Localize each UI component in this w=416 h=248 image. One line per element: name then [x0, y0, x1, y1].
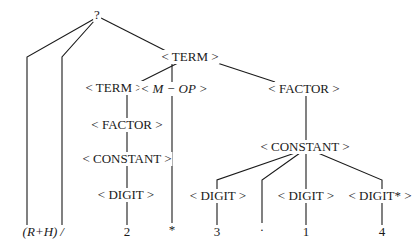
node-root: ?	[93, 8, 101, 22]
leaf-leaf-slash: /	[59, 225, 65, 239]
node-constant-left: < CONSTANT >	[81, 152, 172, 166]
leaf-leaf-3: 3	[213, 225, 222, 239]
node-digit-3: < DIGIT >	[189, 189, 247, 203]
node-term-left: < TERM >	[84, 81, 143, 95]
node-digit-left: < DIGIT >	[97, 188, 155, 202]
node-factor-right: < FACTOR >	[267, 82, 340, 96]
leaf-leaf-1: 1	[302, 225, 311, 239]
node-term-top: < TERM >	[160, 50, 219, 64]
node-constant-right: < CONSTANT >	[259, 140, 350, 154]
tree-edge	[101, 18, 168, 52]
leaf-leaf-dot: ·	[259, 223, 265, 237]
node-digit-1: < DIGIT >	[277, 189, 335, 203]
leaf-leaf-rh: (R+H)	[22, 225, 59, 239]
leaf-leaf-2: 2	[123, 225, 132, 239]
leaf-leaf-star: *	[168, 223, 177, 237]
tree-edge	[27, 19, 94, 226]
tree-edges	[0, 0, 416, 248]
node-digit-star: < DIGIT* >	[347, 189, 412, 203]
node-mop: < M − OP >	[139, 82, 208, 96]
leaf-leaf-4: 4	[378, 225, 387, 239]
node-factor-left: < FACTOR >	[90, 118, 163, 132]
